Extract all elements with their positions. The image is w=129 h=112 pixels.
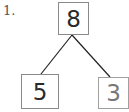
left-child-box: 5 [21, 74, 59, 109]
left-child-value: 5 [33, 79, 48, 105]
root-node-value: 8 [66, 6, 81, 32]
root-node-box: 8 [58, 2, 89, 35]
right-child-box: 3 [98, 77, 129, 109]
right-child-value: 3 [106, 80, 121, 106]
edge-root-left [41, 35, 72, 74]
edge-root-right [72, 35, 110, 77]
